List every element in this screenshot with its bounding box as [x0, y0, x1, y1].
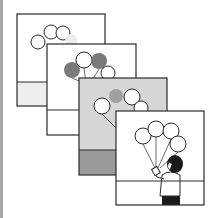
- balloon-icon: [31, 35, 45, 49]
- balloon-icon: [109, 89, 123, 103]
- balloon-icon: [170, 136, 186, 152]
- balloon-icon: [94, 98, 110, 114]
- torso: [160, 172, 180, 196]
- skirt: [162, 196, 180, 205]
- balloon-sequence-illustration: [0, 0, 216, 218]
- illustration-stage: [0, 0, 216, 218]
- balloon-icon: [148, 121, 164, 137]
- panel-4: [116, 111, 204, 205]
- balloon-icon: [76, 52, 92, 68]
